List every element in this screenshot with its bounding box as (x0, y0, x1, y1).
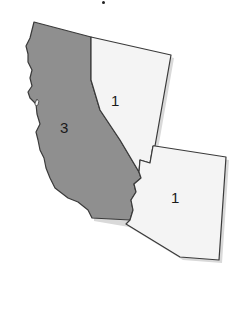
label-california: 3 (60, 119, 68, 136)
label-arizona: 1 (171, 189, 179, 206)
state-map: 3 1 1 (0, 0, 244, 329)
label-nevada: 1 (111, 92, 119, 109)
